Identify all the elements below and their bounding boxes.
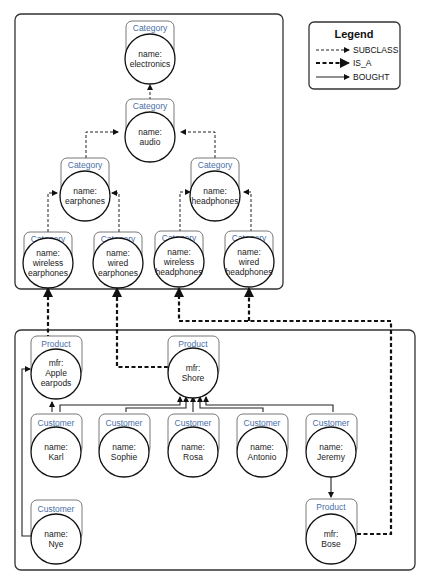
svg-text:Customer: Customer xyxy=(38,504,75,514)
svg-text:Shore: Shore xyxy=(182,373,205,383)
svg-text:name:: name: xyxy=(36,248,60,258)
svg-text:headphones: headphones xyxy=(156,267,203,277)
node-earphones[interactable]: Category name: earphones xyxy=(60,158,110,221)
svg-text:Category: Category xyxy=(68,160,103,170)
node-product-bose[interactable]: Product mfr: Bose xyxy=(306,499,357,564)
node-electronics[interactable]: Category name: electronics xyxy=(125,21,175,84)
node-customer-karl[interactable]: Customer name: Karl xyxy=(31,414,82,477)
svg-text:Category: Category xyxy=(133,101,168,111)
node-product-apple[interactable]: Product mfr: Apple earpods xyxy=(31,336,82,399)
node-headphones[interactable]: Category name: headphones xyxy=(190,158,240,221)
svg-text:name:: name: xyxy=(112,442,136,452)
svg-text:name:: name: xyxy=(106,248,130,258)
svg-text:name:: name: xyxy=(167,247,191,257)
node-product-shore[interactable]: Product mfr: Shore xyxy=(168,336,219,398)
svg-text:name:: name: xyxy=(44,529,68,539)
svg-text:mfr:: mfr: xyxy=(324,529,339,539)
legend: Legend SUBCLASS IS_A BOUGHT xyxy=(309,22,400,89)
svg-text:earphones: earphones xyxy=(65,196,105,206)
svg-text:Category: Category xyxy=(198,160,233,170)
svg-text:name:: name: xyxy=(44,442,68,452)
node-wireless-earphones[interactable]: Category name: wireless earphones xyxy=(23,232,73,288)
svg-text:name:: name: xyxy=(73,186,97,196)
svg-text:Rosa: Rosa xyxy=(183,452,203,462)
svg-text:name:: name: xyxy=(319,442,343,452)
node-customer-nye[interactable]: Customer name: Nye xyxy=(31,500,82,564)
svg-text:Sophie: Sophie xyxy=(111,452,138,462)
node-wired-earphones[interactable]: Category name: wired earphones xyxy=(93,232,143,288)
svg-text:audio: audio xyxy=(140,137,161,147)
svg-text:Antonio: Antonio xyxy=(248,452,277,462)
node-wireless-headphones[interactable]: Category name: wireless headphones xyxy=(154,231,204,287)
svg-text:wired: wired xyxy=(238,257,260,267)
legend-title: Legend xyxy=(334,28,373,40)
svg-text:Karl: Karl xyxy=(48,452,63,462)
svg-text:name:: name: xyxy=(181,442,205,452)
legend-is-a: IS_A xyxy=(353,58,372,68)
svg-text:Jeremy: Jeremy xyxy=(317,452,346,462)
svg-text:name:: name: xyxy=(237,247,261,257)
svg-text:mfr:: mfr: xyxy=(49,358,64,368)
is-a-edges xyxy=(48,288,391,534)
svg-text:name:: name: xyxy=(203,186,227,196)
node-audio[interactable]: Category name: audio xyxy=(125,99,175,162)
node-customer-antonio[interactable]: Customer name: Antonio xyxy=(237,414,288,477)
svg-text:electronics: electronics xyxy=(130,59,171,69)
svg-text:earphones: earphones xyxy=(28,268,68,278)
node-customer-jeremy[interactable]: Customer name: Jeremy xyxy=(306,414,357,477)
svg-text:Category: Category xyxy=(133,23,168,33)
svg-text:Product: Product xyxy=(41,339,71,349)
node-wired-headphones[interactable]: Category name: wired headphones xyxy=(224,231,274,287)
svg-text:wireless: wireless xyxy=(163,257,195,267)
svg-text:headphones: headphones xyxy=(192,196,239,206)
svg-text:name:: name: xyxy=(138,49,162,59)
svg-text:mfr:: mfr: xyxy=(186,363,201,373)
svg-text:earphones: earphones xyxy=(98,268,138,278)
svg-text:Product: Product xyxy=(316,502,346,512)
svg-text:headphones: headphones xyxy=(226,267,273,277)
legend-subclass: SUBCLASS xyxy=(353,45,399,55)
svg-text:Nye: Nye xyxy=(48,539,63,549)
svg-text:earpods: earpods xyxy=(41,378,72,388)
svg-text:wireless: wireless xyxy=(32,258,64,268)
svg-text:Apple: Apple xyxy=(45,368,67,378)
node-customer-rosa[interactable]: Customer name: Rosa xyxy=(168,414,219,477)
svg-text:Bose: Bose xyxy=(321,539,341,549)
svg-text:name:: name: xyxy=(250,442,274,452)
node-customer-sophie[interactable]: Customer name: Sophie xyxy=(99,414,150,477)
svg-text:wired: wired xyxy=(107,258,129,268)
legend-bought: BOUGHT xyxy=(353,72,389,82)
svg-text:name:: name: xyxy=(138,127,162,137)
